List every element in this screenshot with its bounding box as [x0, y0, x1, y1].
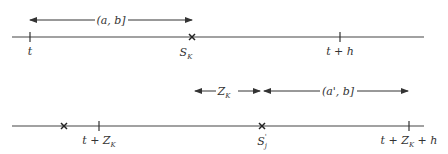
label-t-plus-z-k-plus-h: t + ZK + h	[381, 134, 438, 149]
bottom-interval-arrow: (a', b]	[264, 85, 408, 98]
label-s-prime-j: S'j	[257, 133, 267, 150]
top-timeline: (a, b] t SK t + h	[12, 14, 424, 61]
label-s-k: SK	[180, 46, 194, 61]
label-t: t	[28, 45, 33, 58]
shift-arrow-z-k: ZK	[195, 85, 260, 100]
timeline-diagram: (a, b] t SK t + h ZK (a', b]	[0, 0, 448, 154]
bottom-timeline: ZK (a', b] t + ZK S'j t + ZK + h	[12, 85, 437, 150]
top-interval-arrow: (a, b]	[30, 14, 192, 27]
label-t-plus-h: t + h	[326, 45, 354, 58]
interval-label-a-b: (a, b]	[96, 14, 126, 27]
interval-label-a-prime-b: (a', b]	[322, 85, 355, 98]
shift-label-z-k: ZK	[217, 85, 232, 100]
label-t-plus-z-k: t + ZK	[82, 134, 116, 149]
